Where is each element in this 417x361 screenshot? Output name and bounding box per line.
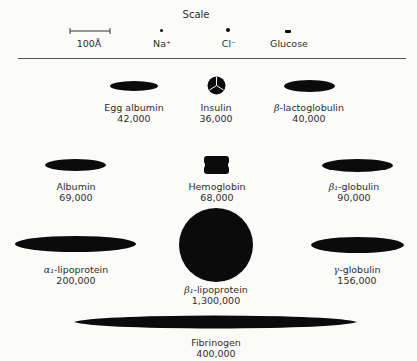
fibrinogen-label: Fibrinogen 400,000: [191, 337, 241, 359]
molecular-weight: 42,000: [104, 113, 164, 124]
beta1-lipoprotein-shape: [179, 208, 253, 282]
name-suffix: -lipoprotein: [54, 264, 108, 275]
molecular-weight: 90,000: [329, 192, 380, 203]
protein-name: α₁-lipoprotein: [44, 264, 109, 275]
scale-bar: [69, 27, 111, 35]
protein-name: γ-globulin: [334, 264, 381, 275]
protein-name: β₁-globulin: [329, 181, 380, 192]
molecular-weight: 400,000: [191, 348, 241, 359]
gamma-globulin-shape: [311, 237, 404, 253]
beta-lactoglobulin-label: β-lactoglobulin 40,000: [274, 102, 344, 124]
glucose-dash: [285, 30, 291, 33]
protein-name: Albumin: [56, 181, 95, 192]
albumin-label: Albumin 69,000: [56, 181, 95, 203]
protein-name: Fibrinogen: [191, 337, 241, 348]
name-suffix: -lipoprotein: [193, 284, 247, 295]
alpha1-lipoprotein-shape: [15, 236, 136, 252]
molecular-weight: 200,000: [44, 275, 109, 286]
greek-prefix: β₁: [184, 284, 193, 295]
molecular-weight: 156,000: [334, 275, 381, 286]
molecular-weight: 69,000: [56, 192, 95, 203]
insulin-shape: [207, 76, 226, 95]
egg-albumin-label: Egg albumin 42,000: [104, 102, 164, 124]
name-suffix: -lactoglobulin: [280, 102, 344, 113]
cl-ion-label: Cl⁻: [222, 38, 236, 49]
albumin-shape: [45, 159, 106, 171]
na-ion-dot: [160, 29, 163, 32]
fibrinogen-shape: [74, 315, 357, 329]
scale-title: Scale: [183, 9, 210, 20]
alpha1-lipoprotein-label: α₁-lipoprotein 200,000: [44, 264, 109, 286]
protein-name: Hemoglobin: [188, 181, 245, 192]
hemoglobin-label: Hemoglobin 68,000: [188, 181, 245, 203]
beta1-globulin-shape: [322, 159, 393, 172]
protein-name: β-lactoglobulin: [274, 102, 344, 113]
egg-albumin-shape: [110, 81, 158, 91]
hemoglobin-shape: [204, 156, 229, 174]
cl-ion-dot: [226, 28, 230, 32]
na-ion-label: Na⁺: [153, 38, 171, 49]
insulin-label: Insulin 36,000: [199, 102, 232, 124]
greek-prefix: α₁: [44, 264, 54, 275]
scale-bar-label: 100Å: [77, 38, 102, 49]
beta-lactoglobulin-shape: [284, 80, 335, 92]
divider-line: [18, 58, 406, 59]
protein-name: β₁-lipoprotein: [184, 284, 248, 295]
molecular-weight: 1,300,000: [184, 295, 248, 306]
gamma-globulin-label: γ-globulin 156,000: [334, 264, 381, 286]
greek-prefix: β₁: [329, 181, 338, 192]
protein-name: Egg albumin: [104, 102, 164, 113]
molecular-weight: 36,000: [199, 113, 232, 124]
name-suffix: -globulin: [339, 264, 380, 275]
beta1-lipoprotein-label: β₁-lipoprotein 1,300,000: [184, 284, 248, 306]
molecular-weight: 40,000: [274, 113, 344, 124]
name-suffix: -globulin: [338, 181, 379, 192]
molecular-weight: 68,000: [188, 192, 245, 203]
protein-name: Insulin: [199, 102, 232, 113]
glucose-label: Glucose: [270, 38, 308, 49]
beta1-globulin-label: β₁-globulin 90,000: [329, 181, 380, 203]
